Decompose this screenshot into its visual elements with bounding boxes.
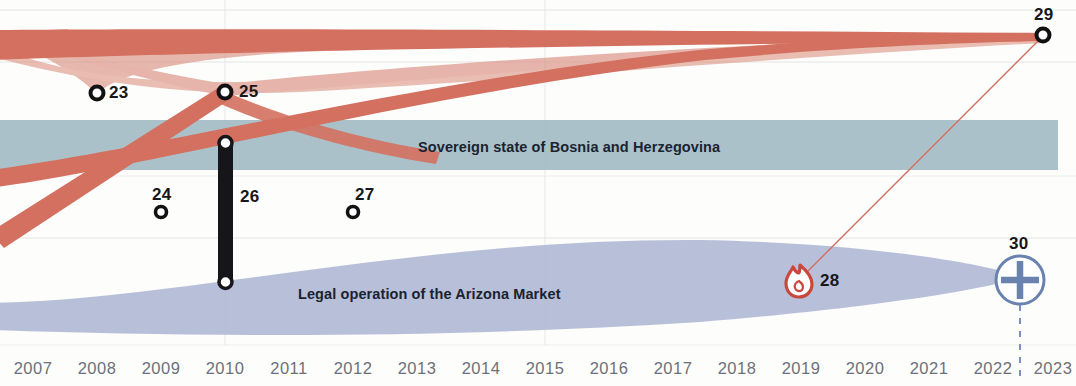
year-tick-2012: 2012 (334, 359, 373, 378)
node-30-label: 30 (1009, 234, 1028, 254)
node-28-label: 28 (820, 271, 839, 291)
year-tick-2017: 2017 (654, 359, 693, 378)
year-tick-2014: 2014 (462, 359, 501, 378)
node-29-label: 29 (1034, 5, 1053, 25)
year-tick-2023: 2023 (1034, 359, 1073, 378)
node-24-label: 24 (152, 185, 171, 205)
year-tick-2016: 2016 (590, 359, 629, 378)
node-23-label: 23 (109, 83, 128, 103)
year-tick-2022: 2022 (974, 359, 1013, 378)
node-25-label: 25 (239, 82, 258, 102)
year-tick-2007: 2007 (14, 359, 53, 378)
node-23-marker[interactable] (91, 87, 104, 100)
node-26-bar[interactable] (218, 137, 233, 289)
node-30-plus-icon[interactable] (996, 256, 1044, 304)
year-tick-2020: 2020 (846, 359, 885, 378)
year-tick-2013: 2013 (398, 359, 437, 378)
year-axis: 2007200820092010201120122013201420152016… (0, 342, 1076, 386)
node-27-label: 27 (355, 185, 374, 205)
year-tick-2021: 2021 (910, 359, 949, 378)
node-29-marker[interactable] (1037, 29, 1050, 42)
node-24-marker[interactable] (156, 207, 167, 218)
node-26-label: 26 (240, 187, 259, 207)
year-tick-2015: 2015 (526, 359, 565, 378)
node-25-marker[interactable] (219, 86, 232, 99)
year-tick-2010: 2010 (206, 359, 245, 378)
year-tick-2018: 2018 (718, 359, 757, 378)
year-tick-2011: 2011 (270, 359, 307, 378)
year-tick-2019: 2019 (782, 359, 821, 378)
node-27-marker[interactable] (348, 207, 359, 218)
timeline-diagram: Sovereign state of Bosnia and Herzegovin… (0, 0, 1076, 386)
year-tick-2009: 2009 (142, 359, 181, 378)
arizona-band-label: Legal operation of the Arizona Market (298, 286, 561, 302)
year-tick-2008: 2008 (78, 359, 117, 378)
sovereign-band-label: Sovereign state of Bosnia and Herzegovin… (418, 139, 720, 155)
